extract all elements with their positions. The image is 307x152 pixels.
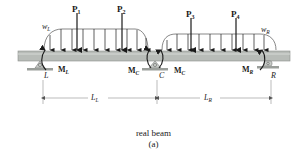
support-center: C xyxy=(142,61,168,80)
load-label-wL: wL xyxy=(42,22,50,32)
distributed-load-left: wL xyxy=(42,22,148,50)
support-left: L xyxy=(27,61,53,80)
distributed-load-right: wR xyxy=(162,25,276,50)
moment-label-MC-right: MC xyxy=(174,66,186,76)
load-label-wR: wR xyxy=(261,25,270,35)
point-load-label-P1: P1 xyxy=(72,4,81,15)
point-load-label-P3: P3 xyxy=(186,9,195,20)
dimensions: LL LR xyxy=(43,80,271,104)
support-right: R xyxy=(257,61,279,80)
beam xyxy=(18,51,290,61)
dimension-label-LR: LR xyxy=(203,93,212,103)
point-load-label-P2: P2 xyxy=(117,4,126,15)
figure-caption: real beam xyxy=(0,128,307,138)
moment-label-ML: ML xyxy=(58,65,70,75)
moment-label-MC-left: MC xyxy=(128,66,140,76)
dimension-label-LL: LL xyxy=(90,93,99,103)
moment-label-MR: MR xyxy=(242,65,254,75)
support-label-R: R xyxy=(270,71,276,80)
support-label-C: C xyxy=(159,71,165,80)
figure-sublabel: (a) xyxy=(0,139,307,149)
point-load-label-P4: P4 xyxy=(231,9,240,20)
point-loads: P1 P2 P3 P4 xyxy=(72,4,240,50)
support-label-L: L xyxy=(43,71,49,80)
